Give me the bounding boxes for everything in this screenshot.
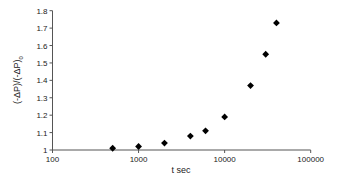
y-tick-label: 1.1: [36, 129, 48, 138]
y-tick-label: 1.7: [36, 24, 48, 33]
scatter-chart: 11.11.21.31.41.51.61.71.8 10010001000010…: [0, 0, 340, 182]
diamond-marker: [109, 145, 116, 152]
y-axis: 11.11.21.31.41.51.61.71.8: [36, 7, 52, 155]
x-tick-label: 100000: [297, 155, 324, 164]
diamond-marker: [247, 82, 254, 89]
x-axis-title: t sec: [171, 165, 191, 175]
data-points: [109, 19, 280, 151]
diamond-marker: [187, 133, 194, 140]
diamond-marker: [161, 140, 168, 147]
y-tick-label: 1.4: [36, 76, 48, 85]
x-tick-label: 10000: [214, 155, 237, 164]
y-tick-label: 1.6: [36, 42, 48, 51]
x-tick-label: 1000: [130, 155, 148, 164]
y-tick-label: 1: [43, 146, 48, 155]
diamond-marker: [273, 19, 280, 26]
diamond-marker: [202, 127, 209, 134]
y-tick-label: 1.8: [36, 7, 48, 16]
diamond-marker: [262, 51, 269, 58]
x-axis: 100100010000100000: [46, 150, 325, 164]
y-tick-label: 1.5: [36, 59, 48, 68]
y-axis-title: (-ΔP)/(-ΔP)0: [12, 55, 24, 104]
x-tick-label: 100: [46, 155, 60, 164]
diamond-marker: [135, 143, 142, 150]
diamond-marker: [221, 114, 228, 121]
y-tick-label: 1.2: [36, 111, 48, 120]
y-tick-label: 1.3: [36, 94, 48, 103]
